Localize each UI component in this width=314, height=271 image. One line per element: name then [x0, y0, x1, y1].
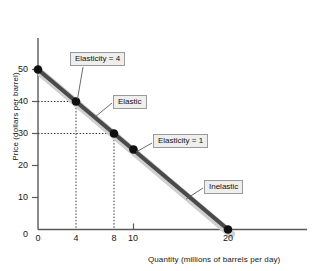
elasticity-demand-chart: 50 40 30 20 10 0 0 4 8 10 20 Price (doll…: [0, 0, 314, 271]
annotation-elasticity-4: Elasticity = 4: [70, 52, 125, 66]
leader-line-elasticity-1: [136, 143, 152, 152]
annotation-elastic: Elastic: [113, 95, 147, 109]
leader-line-elasticity-4: [78, 67, 84, 99]
y-tick-label-0: 0: [10, 229, 28, 239]
data-point-8-30: [110, 129, 119, 138]
x-tick-label-10: 10: [124, 233, 142, 243]
x-tick-label-20: 20: [219, 233, 237, 243]
data-point-4-40: [72, 97, 81, 106]
y-tick-label-10: 10: [10, 192, 28, 202]
y-axis-title: Price (dollars per barrel): [11, 53, 20, 181]
leader-line-elastic: [95, 103, 112, 117]
data-point-0-50: [34, 65, 43, 74]
x-tick-label-4: 4: [67, 233, 85, 243]
annotation-inelastic: Inelastic: [204, 180, 243, 194]
x-tick-label-8: 8: [105, 233, 123, 243]
x-tick-label-0: 0: [29, 233, 47, 243]
x-axis-title: Quantity (millions of barrels per day): [148, 255, 280, 264]
data-point-10-25: [129, 145, 138, 154]
annotation-elasticity-1: Elasticity = 1: [153, 134, 208, 148]
